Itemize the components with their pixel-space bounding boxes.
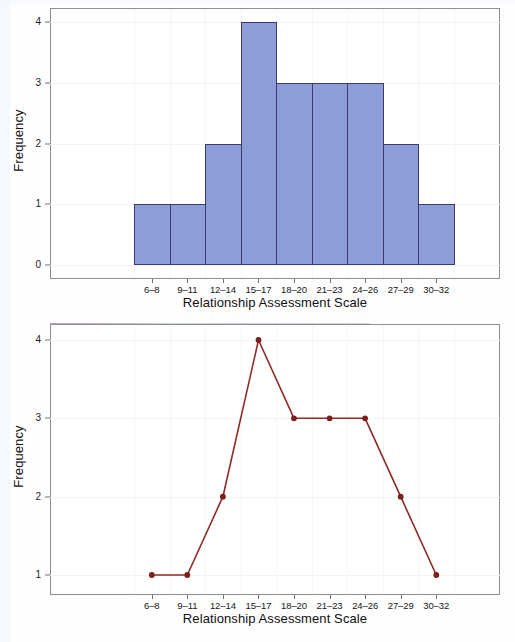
histogram-bar <box>418 204 455 265</box>
y-tick-label: 1 <box>19 199 41 209</box>
histogram-bar <box>241 22 278 265</box>
x-tick-label: 18–20 <box>281 285 307 295</box>
x-tick-mark <box>330 279 331 283</box>
data-point-marker <box>327 415 333 421</box>
x-tick-label: 18–20 <box>281 601 307 611</box>
y-tick-mark <box>45 575 50 576</box>
y-tick-mark <box>45 204 50 205</box>
x-tick-label: 27–29 <box>388 285 414 295</box>
polygon-y-axis-title: Frequency <box>11 417 26 497</box>
histogram-x-axis-title: Relationship Assessment Scale <box>50 295 500 310</box>
histogram-bar <box>347 83 384 265</box>
x-tick-mark <box>187 279 188 283</box>
histogram-y-axis-title: Frequency <box>11 101 26 181</box>
histogram-bar <box>276 83 313 265</box>
x-tick-label: 27–29 <box>388 601 414 611</box>
x-tick-label: 9–11 <box>177 601 197 611</box>
x-tick-label: 6–8 <box>144 285 160 295</box>
x-tick-label: 15–17 <box>245 601 271 611</box>
x-tick-label: 12–14 <box>210 285 236 295</box>
x-tick-label: 15–17 <box>245 285 271 295</box>
x-tick-mark <box>187 595 188 599</box>
figure-page: 43210 6–89–1112–1415–1718–2021–2324–2627… <box>0 0 515 642</box>
x-tick-mark <box>330 595 331 599</box>
x-tick-label: 30–32 <box>423 285 449 295</box>
y-tick-mark <box>45 340 50 341</box>
x-tick-mark <box>258 595 259 599</box>
x-tick-label: 21–23 <box>317 601 343 611</box>
x-tick-label: 21–23 <box>317 285 343 295</box>
histogram-bar <box>170 204 207 265</box>
x-tick-label: 24–26 <box>352 601 378 611</box>
data-point-marker <box>149 572 155 578</box>
histogram-bar <box>312 83 349 265</box>
y-tick-mark <box>45 22 50 23</box>
gridline-horizontal <box>50 265 500 266</box>
data-point-marker <box>398 494 404 500</box>
data-point-marker <box>362 415 368 421</box>
y-tick-label: 4 <box>19 17 41 27</box>
y-tick-mark <box>45 82 50 83</box>
x-tick-mark <box>258 279 259 283</box>
y-tick-label: 1 <box>19 570 41 580</box>
data-point-marker <box>220 494 226 500</box>
y-tick-mark <box>45 418 50 419</box>
x-tick-label: 9–11 <box>177 285 197 295</box>
x-tick-mark <box>294 279 295 283</box>
y-tick-label: 3 <box>19 78 41 88</box>
polygon-x-axis-title: Relationship Assessment Scale <box>50 611 500 626</box>
x-tick-mark <box>436 279 437 283</box>
x-tick-mark <box>365 279 366 283</box>
y-tick-mark <box>45 143 50 144</box>
x-tick-mark <box>152 595 153 599</box>
data-point-marker <box>433 572 439 578</box>
data-point-marker <box>291 415 297 421</box>
histogram-figure: 43210 6–89–1112–1415–1718–2021–2324–2627… <box>0 0 515 321</box>
y-tick-mark <box>45 265 50 266</box>
x-tick-label: 24–26 <box>352 285 378 295</box>
data-point-marker <box>256 337 262 343</box>
x-tick-mark <box>401 595 402 599</box>
polygon-line-series <box>0 321 515 642</box>
data-point-marker <box>184 572 190 578</box>
polygon-line <box>152 340 437 575</box>
x-tick-mark <box>223 595 224 599</box>
histogram-bar <box>383 144 420 266</box>
polygon-figure: 4321 6–89–1112–1415–1718–2021–2324–2627–… <box>0 321 515 642</box>
x-tick-mark <box>223 279 224 283</box>
x-tick-label: 6–8 <box>144 601 160 611</box>
y-tick-label: 4 <box>19 335 41 345</box>
x-tick-mark <box>365 595 366 599</box>
x-tick-label: 30–32 <box>423 601 449 611</box>
x-tick-mark <box>401 279 402 283</box>
x-tick-mark <box>152 279 153 283</box>
x-tick-label: 12–14 <box>210 601 236 611</box>
y-tick-mark <box>45 496 50 497</box>
y-tick-label: 0 <box>19 260 41 270</box>
x-tick-mark <box>436 595 437 599</box>
histogram-bar <box>134 204 171 265</box>
histogram-bar <box>205 144 242 266</box>
x-tick-mark <box>294 595 295 599</box>
